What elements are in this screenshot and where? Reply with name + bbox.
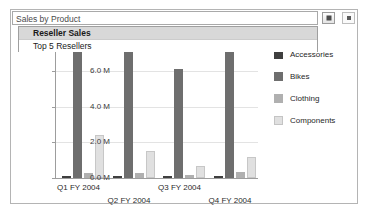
chart-y-tick-label: 0.0 M bbox=[70, 173, 110, 182]
chart-y-tick-label: 2.0 M bbox=[70, 137, 110, 146]
parameter-dropdown-list[interactable]: Reseller Sales Top 5 Resellers bbox=[18, 26, 318, 52]
chart-x-tick-label: Q4 FY 2004 bbox=[209, 196, 252, 205]
chart-bar bbox=[113, 176, 122, 178]
legend-item: Components bbox=[274, 115, 335, 126]
parameter-toolbar: Sales by Product bbox=[11, 10, 359, 26]
parameter-combobox-value: Sales by Product bbox=[16, 13, 80, 25]
dropdown-arrow-icon bbox=[326, 16, 331, 21]
chart-x-tick-label: Q1 FY 2004 bbox=[57, 183, 100, 192]
chart-legend: AccessoriesBikesClothingComponents bbox=[274, 49, 335, 137]
chart-bar bbox=[196, 166, 205, 179]
chart-bar bbox=[247, 157, 256, 178]
chart-y-tick-mark bbox=[52, 107, 55, 108]
chart-bar bbox=[135, 173, 144, 178]
chart-bar-group bbox=[214, 35, 258, 178]
parameter-combobox[interactable]: Sales by Product bbox=[12, 11, 318, 25]
chart-bar bbox=[146, 151, 155, 178]
chart-y-tick-mark bbox=[52, 178, 55, 179]
legend-label: Clothing bbox=[290, 94, 319, 103]
chart-y-tick-mark bbox=[52, 71, 55, 72]
legend-label: Components bbox=[290, 116, 335, 125]
chart-bar-group bbox=[163, 35, 207, 178]
chart-bar-group bbox=[113, 35, 157, 178]
legend-label: Bikes bbox=[290, 72, 310, 81]
dropdown-option-reseller-sales[interactable]: Reseller Sales bbox=[19, 27, 317, 39]
legend-swatch bbox=[274, 116, 283, 125]
chart-bar bbox=[163, 176, 172, 178]
chart-bar bbox=[236, 172, 245, 178]
dropdown-option-top-5-resellers[interactable]: Top 5 Resellers bbox=[19, 39, 317, 52]
legend-item: Bikes bbox=[274, 71, 335, 82]
chart-bar bbox=[174, 69, 183, 178]
chart-bar bbox=[225, 52, 234, 178]
legend-swatch bbox=[274, 72, 283, 81]
report-viewer-panel: Sales by Product Reseller Sales Top 5 Re… bbox=[10, 9, 358, 204]
legend-swatch bbox=[274, 94, 283, 103]
chart-bar bbox=[185, 175, 194, 178]
chart-bar bbox=[214, 176, 223, 179]
parameter-dropdown-button[interactable] bbox=[322, 12, 335, 24]
chart-y-tick-label: 6.0 M bbox=[70, 66, 110, 75]
chart-x-tick-label: Q2 FY 2004 bbox=[108, 196, 151, 205]
dropdown-arrow-icon bbox=[347, 16, 351, 20]
chart-y-tick-label: 4.0 M bbox=[70, 102, 110, 111]
secondary-dropdown-button[interactable] bbox=[342, 12, 355, 24]
legend-item: Clothing bbox=[274, 93, 335, 104]
chart-x-tick-label: Q3 FY 2004 bbox=[158, 183, 201, 192]
chart-y-tick-mark bbox=[52, 142, 55, 143]
sales-bar-chart: 0.0 M2.0 M4.0 M6.0 M Q1 FY 2004Q2 FY 200… bbox=[12, 27, 357, 203]
chart-bar bbox=[124, 39, 133, 178]
